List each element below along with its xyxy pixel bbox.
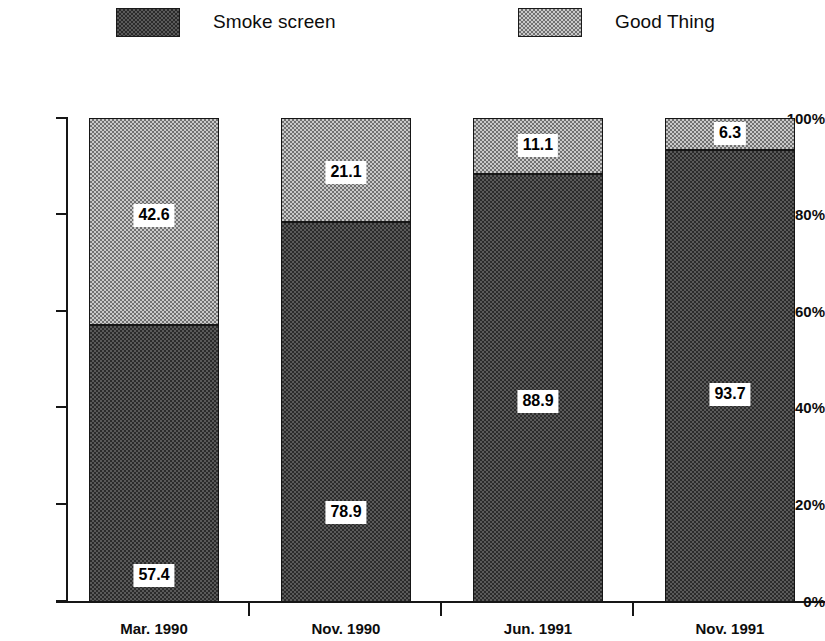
bar-segment-good-thing-jun-1991[interactable]: 11.1: [473, 118, 603, 174]
bar-segment-smoke-screen-nov-1991[interactable]: 93.7: [665, 150, 795, 602]
x-tick-separator-1: [248, 602, 250, 616]
y-tick-0: [56, 600, 67, 602]
bar-value-label-good-thing-jun-1991: 11.1: [518, 134, 558, 157]
bar-value-label-smoke-screen-nov-1991: 93.7: [709, 383, 750, 406]
bar-value-label-smoke-screen-jun-1991: 88.9: [517, 390, 558, 413]
bar-segment-smoke-screen-jun-1991[interactable]: 88.9: [473, 174, 603, 602]
bar-segment-good-thing-nov-1990[interactable]: 21.1: [281, 118, 411, 222]
bar-segment-smoke-screen-nov-1990[interactable]: 78.9: [281, 222, 411, 602]
x-axis-label-mar-1990: Mar. 1990: [59, 620, 249, 637]
y-tick-20: [56, 503, 67, 505]
bar-segment-smoke-screen-mar-1990[interactable]: 57.4: [89, 325, 219, 602]
bar-value-label-smoke-screen-nov-1990: 78.9: [325, 501, 366, 524]
y-tick-100: [56, 117, 67, 119]
y-tick-60: [56, 310, 67, 312]
bar-segment-good-thing-mar-1990[interactable]: 42.6: [89, 118, 219, 325]
stacked-bar-chart: Smoke screen Good Thing 100% 80% 60% 40%…: [0, 0, 825, 641]
y-axis-line: [66, 117, 68, 603]
y-tick-40: [56, 406, 67, 408]
x-axis-label-jun-1991: Jun. 1991: [443, 620, 633, 637]
plot-area: 100% 80% 60% 40% 20% 0% Mar. 1990 Nov. 1…: [0, 0, 825, 641]
bar-value-label-smoke-screen-mar-1990: 57.4: [133, 564, 174, 587]
y-tick-80: [56, 213, 67, 215]
x-axis-label-nov-1991: Nov. 1991: [635, 620, 825, 637]
x-tick-separator-3: [632, 602, 634, 616]
x-axis-label-nov-1990: Nov. 1990: [251, 620, 441, 637]
bar-value-label-good-thing-mar-1990: 42.6: [133, 204, 174, 227]
bar-segment-good-thing-nov-1991[interactable]: 6.3: [665, 118, 795, 150]
bar-value-label-good-thing-nov-1991: 6.3: [714, 122, 746, 145]
x-tick-separator-2: [440, 602, 442, 616]
bar-value-label-good-thing-nov-1990: 21.1: [325, 161, 366, 184]
